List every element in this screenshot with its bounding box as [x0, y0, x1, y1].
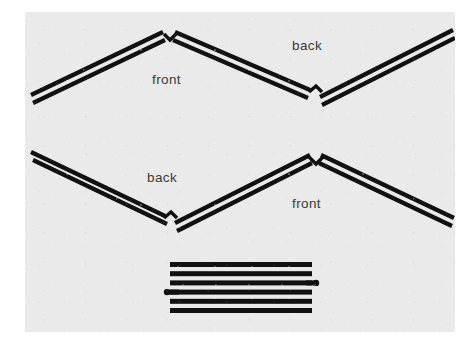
upper-zigzag-segment-right — [320, 30, 455, 105]
lower-zigzag-segment-left — [31, 152, 167, 224]
bar-5 — [170, 299, 312, 304]
lower-zigzag — [31, 152, 454, 231]
bar-4 — [170, 290, 312, 295]
figure-root: front back back front — [0, 0, 468, 350]
bar-stub-marker-right — [306, 280, 319, 286]
upper-zigzag-segment-middle — [173, 32, 310, 98]
upper-zigzag — [31, 30, 455, 105]
figure-artwork — [0, 0, 468, 350]
label-back-bottom: back — [147, 170, 177, 185]
horizontal-bar-stack — [164, 262, 319, 313]
bar-6 — [170, 308, 312, 313]
bar-1 — [170, 262, 312, 267]
upper-zigzag-valley-notch — [309, 86, 322, 92]
upper-zigzag-segment-left — [31, 32, 165, 103]
label-front-bottom: front — [292, 196, 321, 211]
lower-zigzag-segment-middle — [175, 155, 312, 231]
lower-zigzag-valley-notch — [164, 212, 177, 218]
bar-2 — [170, 271, 312, 276]
label-front-top: front — [152, 72, 181, 87]
label-back-top: back — [292, 38, 322, 53]
bar-stub-marker-left — [164, 289, 179, 295]
bar-3 — [170, 280, 312, 285]
lower-zigzag-segment-right — [319, 155, 454, 226]
